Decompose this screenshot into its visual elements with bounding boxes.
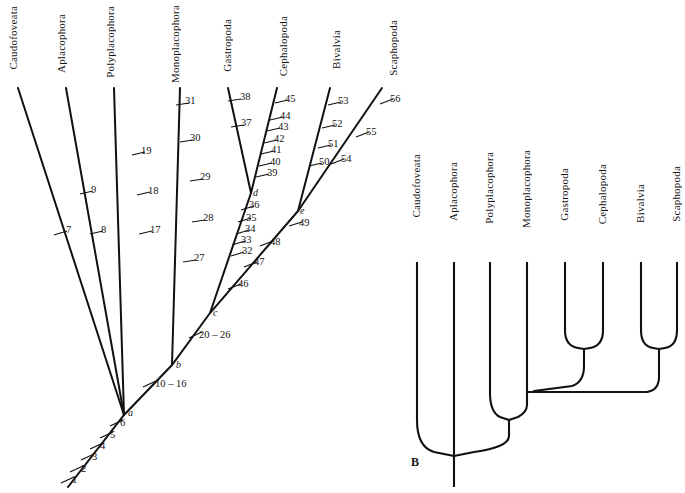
clade-crown-conchifera-right (534, 377, 659, 392)
clade-polyplacophora (490, 393, 527, 420)
panel-b-taxon-label-bivalvia: Bivalvia (635, 184, 646, 223)
figure-root: Caudofoveata Aplacophora Polyplacophora … (0, 0, 685, 493)
panel-b-taxon-label-aplacophora: Aplacophora (448, 162, 459, 221)
clade-crown-conchifera (534, 366, 584, 392)
panel-b-taxon-label-monoplacophora: Monoplacophora (521, 150, 532, 228)
panel-b-label: B (411, 456, 419, 468)
clade-gastropoda-cephalopoda (565, 330, 603, 349)
clade-monoplacophora-crown (527, 358, 534, 392)
panel-b-taxon-label-caudofoveata: Caudofoveata (411, 154, 422, 218)
panel-b-taxon-label-cephalopoda: Cephalopoda (597, 164, 608, 224)
clade-root (417, 420, 509, 456)
clade-bivalvia-scaphopoda (641, 330, 677, 349)
panel-b-taxon-label-polyplacophora: Polyplacophora (484, 152, 495, 224)
panel-b-taxon-label-gastropoda: Gastropoda (559, 168, 570, 221)
panel-b-taxon-label-scaphopoda: Scaphopoda (671, 166, 682, 222)
panel-b-tree (0, 0, 685, 493)
